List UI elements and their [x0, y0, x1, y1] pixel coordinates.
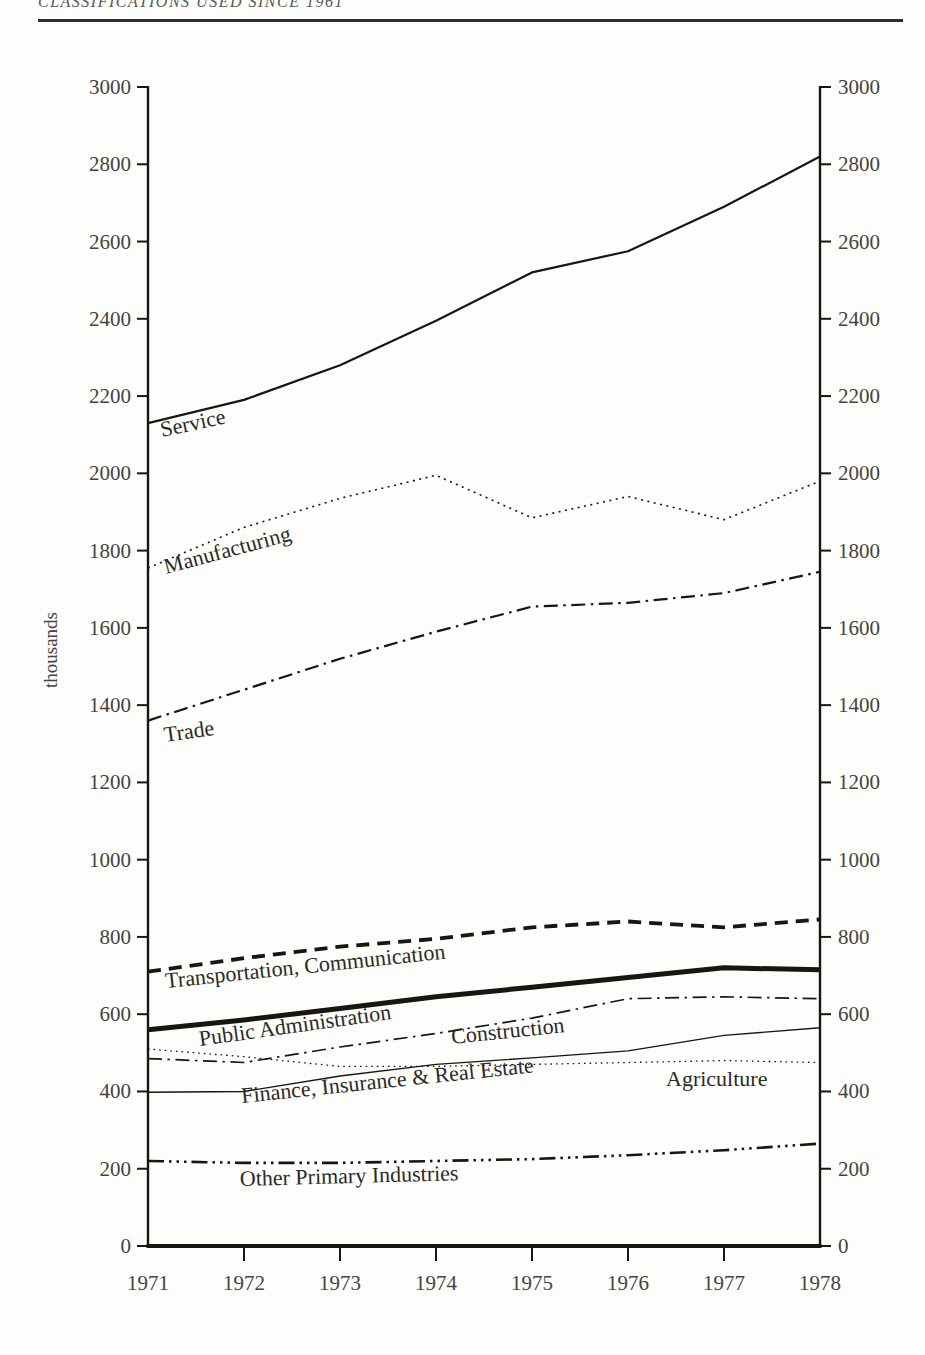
x-tick-label: 1977	[703, 1271, 745, 1295]
series-label-service: Service	[158, 404, 228, 442]
page-header-text: CLASSIFICATIONS USED SINCE 1961	[38, 0, 898, 11]
header-rule	[38, 19, 903, 22]
x-tick-label: 1974	[415, 1271, 458, 1295]
series-label-transportation-communication: Transportation, Communication	[164, 939, 447, 993]
series-label-other-primary-industries: Other Primary Industries	[239, 1160, 458, 1191]
page-header: CLASSIFICATIONS USED SINCE 1961	[38, 0, 898, 13]
series-label-trade: Trade	[162, 715, 216, 747]
y-tick-label-right: 2200	[838, 384, 880, 408]
y-tick-label-right: 600	[838, 1002, 870, 1026]
series-line-other-primary-industries	[148, 1144, 820, 1163]
y-tick-label-right: 200	[838, 1157, 870, 1181]
y-tick-label-right: 1400	[838, 693, 880, 717]
y-tick-label-left: 2200	[89, 384, 131, 408]
y-tick-label-left: 400	[100, 1079, 132, 1103]
y-tick-label-left: 200	[100, 1157, 132, 1181]
employment-line-chart: 0020020040040060060080080010001000120012…	[0, 0, 925, 1355]
series-label-agriculture: Agriculture	[666, 1066, 767, 1091]
x-tick-label: 1978	[799, 1271, 841, 1295]
x-tick-label: 1973	[319, 1271, 361, 1295]
y-tick-label-left: 3000	[89, 75, 131, 99]
scanned-book-page: CLASSIFICATIONS USED SINCE 1961 00200200…	[0, 0, 925, 1355]
y-tick-label-right: 400	[838, 1079, 870, 1103]
series-label-public-administration: Public Administration	[197, 999, 392, 1051]
y-tick-label-left: 600	[100, 1002, 132, 1026]
y-tick-label-right: 800	[838, 925, 870, 949]
x-tick-label: 1975	[511, 1271, 553, 1295]
y-tick-label-right: 1800	[838, 539, 880, 563]
y-tick-label-left: 800	[100, 925, 132, 949]
y-tick-label-left: 0	[121, 1234, 132, 1258]
x-tick-label: 1971	[127, 1271, 169, 1295]
y-tick-label-right: 3000	[838, 75, 880, 99]
y-tick-label-right: 1000	[838, 848, 880, 872]
y-tick-label-left: 1000	[89, 848, 131, 872]
y-tick-label-left: 2600	[89, 230, 131, 254]
series-label-construction: Construction	[450, 1012, 566, 1049]
series-line-trade	[148, 572, 820, 721]
y-tick-label-left: 1400	[89, 693, 131, 717]
y-tick-label-left: 2000	[89, 461, 131, 485]
series-line-service	[148, 157, 820, 424]
y-tick-label-left: 2800	[89, 152, 131, 176]
y-tick-label-right: 2400	[838, 307, 880, 331]
y-tick-label-right: 2800	[838, 152, 880, 176]
y-tick-label-right: 2600	[838, 230, 880, 254]
y-tick-label-right: 1200	[838, 770, 880, 794]
y-tick-label-left: 2400	[89, 307, 131, 331]
x-tick-label: 1972	[223, 1271, 265, 1295]
x-tick-label: 1976	[607, 1271, 649, 1295]
y-tick-label-right: 2000	[838, 461, 880, 485]
y-tick-label-right: 0	[838, 1234, 849, 1258]
series-label-finance-insurance-real-estate: Finance, Insurance & Real Estate	[240, 1052, 535, 1108]
series-label-manufacturing: Manufacturing	[161, 521, 294, 579]
y-tick-label-left: 1600	[89, 616, 131, 640]
y-tick-label-left: 1800	[89, 539, 131, 563]
y-tick-label-right: 1600	[838, 616, 880, 640]
y-axis-title: thousands	[40, 612, 61, 688]
y-tick-label-left: 1200	[89, 770, 131, 794]
